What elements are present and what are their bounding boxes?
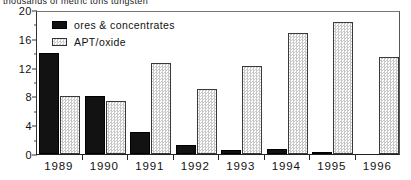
bar-1993-apt bbox=[242, 66, 262, 154]
y-axis-tick-label: 4 bbox=[0, 120, 32, 132]
legend-label: APT/oxide bbox=[74, 36, 126, 48]
y-axis-tick-label: 8 bbox=[0, 91, 32, 103]
bar-1994-ores bbox=[267, 149, 287, 154]
bar-1993-ores bbox=[221, 150, 241, 154]
bar-chart: thousands of metric tons tungsten 048121… bbox=[0, 0, 411, 180]
bar-1989-apt bbox=[60, 96, 80, 154]
x-axis-tick-label: 1994 bbox=[272, 160, 301, 172]
y-axis-tick-label: 0 bbox=[0, 149, 32, 161]
y-axis-tick-label: 16 bbox=[0, 34, 32, 46]
legend-item-apt: APT/oxide bbox=[52, 35, 232, 48]
bar-1991-apt bbox=[151, 63, 171, 154]
x-axis-tick-label: 1996 bbox=[363, 160, 392, 172]
x-axis-tick-label: 1992 bbox=[181, 160, 210, 172]
bar-1992-ores bbox=[176, 145, 196, 154]
x-axis-tick-label: 1991 bbox=[135, 160, 164, 172]
bar-1992-apt bbox=[197, 89, 217, 154]
x-axis-tick-label: 1995 bbox=[317, 160, 346, 172]
bar-1990-apt bbox=[106, 101, 126, 154]
chart-legend: ores & concentratesAPT/oxide bbox=[52, 18, 232, 52]
x-axis-tick-label: 1993 bbox=[226, 160, 255, 172]
bar-1994-apt bbox=[288, 33, 308, 154]
y-axis-tick-label: 12 bbox=[0, 63, 32, 75]
bar-1991-ores bbox=[130, 132, 150, 154]
x-axis-tick-label: 1990 bbox=[90, 160, 119, 172]
legend-swatch-icon bbox=[52, 21, 67, 29]
x-axis-tick-label: 1989 bbox=[44, 160, 73, 172]
bar-1995-ores bbox=[312, 152, 332, 154]
bar-1989-ores bbox=[39, 53, 59, 154]
chart-title: thousands of metric tons tungsten bbox=[3, 0, 333, 6]
bar-1990-ores bbox=[85, 96, 105, 154]
legend-swatch-icon bbox=[52, 38, 67, 46]
x-axis: 19891990199119921993199419951996 bbox=[36, 160, 400, 178]
legend-item-ores: ores & concentrates bbox=[52, 18, 232, 31]
bar-1995-apt bbox=[333, 22, 353, 154]
y-axis-tick-label: 20 bbox=[0, 5, 32, 17]
bar-1996-apt bbox=[379, 57, 399, 154]
legend-label: ores & concentrates bbox=[74, 19, 175, 31]
y-axis: 048121620 bbox=[0, 11, 32, 155]
